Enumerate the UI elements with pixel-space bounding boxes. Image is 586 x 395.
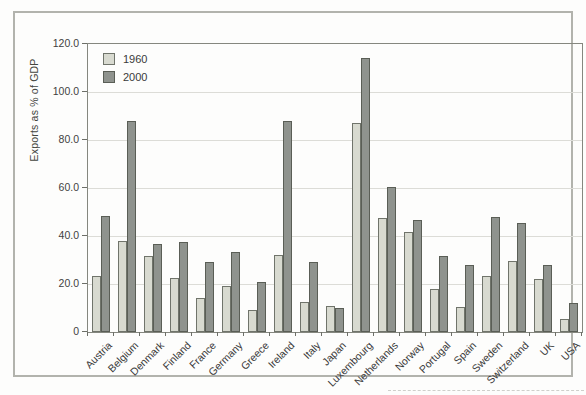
bar-1960-switzerland	[508, 261, 517, 332]
x-tick	[451, 332, 452, 336]
x-tick	[191, 332, 192, 336]
bar-2000-italy	[309, 262, 318, 332]
bar-1960-austria	[92, 276, 101, 332]
x-tick	[555, 332, 556, 336]
bar-1960-norway	[404, 232, 413, 332]
bar-2000-belgium	[127, 121, 136, 332]
y-tick-label: 120.0	[23, 37, 79, 49]
bar-2000-spain	[465, 265, 474, 332]
bar-1960-portugal	[430, 289, 439, 332]
bar-2000-netherlands	[387, 187, 396, 332]
x-label-usa: USA	[559, 339, 583, 363]
bar-1960-finland	[170, 278, 179, 332]
legend-item-1960: 1960	[103, 53, 147, 65]
bar-2000-finland	[179, 242, 188, 332]
bar-1960-belgium	[118, 241, 127, 332]
bar-1960-japan	[326, 306, 335, 332]
y-tick-label: 80.0	[23, 133, 79, 145]
bar-2000-greece	[257, 282, 266, 332]
legend-swatch-1960-icon	[103, 53, 115, 65]
y-tick-label: 100.0	[23, 85, 79, 97]
bar-2000-denmark	[153, 244, 162, 332]
x-tick	[269, 332, 270, 336]
x-tick	[165, 332, 166, 336]
y-tick-label: 0	[23, 325, 79, 337]
y-tick-label: 20.0	[23, 277, 79, 289]
legend-item-2000: 2000	[103, 71, 147, 83]
bar-2000-france	[205, 262, 214, 332]
gridline-40	[88, 236, 582, 237]
bar-2000-japan	[335, 308, 344, 332]
x-tick	[139, 332, 140, 336]
x-tick	[425, 332, 426, 336]
plot-area: 1960 2000	[87, 43, 583, 333]
bar-2000-luxembourg	[361, 58, 370, 332]
bar-1960-usa	[560, 319, 569, 332]
bar-1960-luxembourg	[352, 123, 361, 332]
bar-2000-sweden	[491, 217, 500, 332]
x-tick	[477, 332, 478, 336]
bar-2000-ireland	[283, 121, 292, 332]
y-tick-label: 60.0	[23, 181, 79, 193]
x-tick	[295, 332, 296, 336]
bar-1960-uk	[534, 279, 543, 332]
gridline-100	[88, 92, 582, 93]
bar-1960-france	[196, 298, 205, 332]
x-label-finland: Finland	[160, 339, 193, 372]
bar-2000-germany	[231, 252, 240, 332]
gridline-80	[88, 140, 582, 141]
legend-label-1960: 1960	[123, 53, 147, 65]
bar-2000-usa	[569, 303, 578, 332]
x-tick	[503, 332, 504, 336]
legend: 1960 2000	[103, 53, 147, 89]
x-label-uk: UK	[538, 339, 557, 358]
bar-1960-sweden	[482, 276, 491, 332]
scanned-chart-page: Exports as % of GDP 020.040.060.080.0100…	[0, 0, 586, 395]
x-tick	[347, 332, 348, 336]
x-tick	[581, 332, 582, 336]
legend-swatch-2000-icon	[103, 71, 115, 83]
bar-1960-greece	[248, 310, 257, 332]
bar-1960-netherlands	[378, 218, 387, 332]
bar-1960-spain	[456, 307, 465, 332]
bar-2000-portugal	[439, 256, 448, 332]
bar-2000-norway	[413, 220, 422, 332]
bar-1960-ireland	[274, 255, 283, 332]
figure-frame: Exports as % of GDP 020.040.060.080.0100…	[13, 11, 573, 377]
x-tick	[529, 332, 530, 336]
legend-label-2000: 2000	[123, 71, 147, 83]
x-label-greece: Greece	[238, 339, 271, 372]
scan-artifact-line	[388, 390, 584, 391]
x-label-ireland: Ireland	[265, 339, 296, 370]
bar-1960-denmark	[144, 256, 153, 332]
x-tick	[373, 332, 374, 336]
bar-2000-uk	[543, 265, 552, 332]
bar-1960-italy	[300, 302, 309, 332]
bar-2000-austria	[101, 216, 110, 332]
x-tick	[399, 332, 400, 336]
x-tick	[217, 332, 218, 336]
x-tick	[321, 332, 322, 336]
x-tick	[243, 332, 244, 336]
gridline-60	[88, 188, 582, 189]
x-axis: AustriaBelgiumDenmarkFinlandFranceGerman…	[87, 332, 581, 390]
y-axis: 020.040.060.080.0100.0120.0	[15, 43, 87, 331]
bar-2000-switzerland	[517, 223, 526, 332]
x-tick	[87, 332, 88, 336]
x-tick	[113, 332, 114, 336]
y-tick-label: 40.0	[23, 229, 79, 241]
bar-1960-germany	[222, 286, 231, 332]
